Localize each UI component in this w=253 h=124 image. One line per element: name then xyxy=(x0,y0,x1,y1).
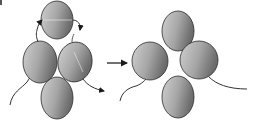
after-state xyxy=(120,11,247,118)
after-left-ellipse xyxy=(132,42,168,80)
right-outgoing-arrow xyxy=(83,79,104,91)
right-connector-line xyxy=(72,34,74,42)
diagram-canvas xyxy=(0,0,253,124)
after-bottom-ellipse xyxy=(162,76,194,118)
corner-mark xyxy=(0,0,2,5)
before-state xyxy=(10,1,104,119)
after-right-ellipse xyxy=(180,41,218,79)
bottom-ellipse xyxy=(41,77,73,119)
after-right-tail xyxy=(209,77,247,89)
after-left-tail xyxy=(120,77,148,101)
left-ellipse xyxy=(23,41,57,83)
